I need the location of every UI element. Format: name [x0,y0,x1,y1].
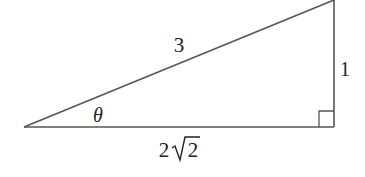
angle-label: θ [93,104,103,126]
hypotenuse-label: 3 [174,33,185,57]
hypotenuse-side [24,0,334,127]
adjacent-label: 2 2 [159,137,200,162]
opposite-label: 1 [340,58,350,80]
right-angle-marker [319,111,334,127]
adjacent-coefficient: 2 [159,138,170,162]
triangle-diagram: 3 1 θ 2 2 [0,0,365,177]
adjacent-radicand: 2 [188,138,199,162]
